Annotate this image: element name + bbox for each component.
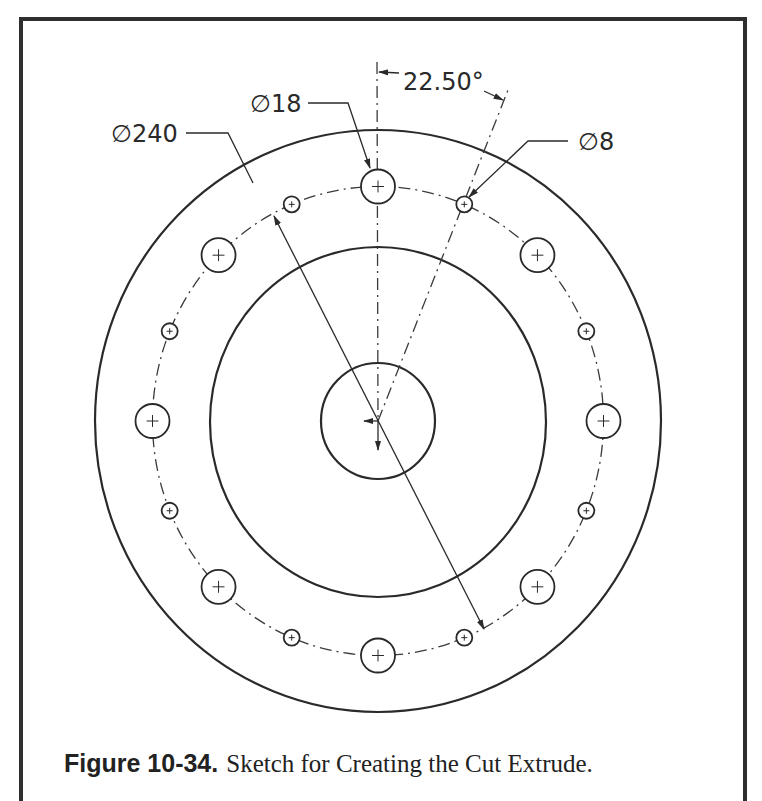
diameter-8-label: ∅8 [578,128,614,156]
large-hole [136,404,170,438]
angle-dim-arrow-right [484,91,503,100]
figure-caption: Figure 10-34.Sketch for Creating the Cut… [64,748,593,779]
small-hole [578,503,594,519]
figure-title: Sketch for Creating the Cut Extrude. [226,750,593,777]
small-hole [456,630,472,646]
small-hole [162,503,178,519]
diameter-240-leader [186,133,253,183]
figure-number: Figure 10-34. [64,749,218,777]
diameter-240-dimension-line [274,216,484,629]
small-hole [284,196,300,212]
large-hole [361,639,395,673]
large-hole [202,570,236,604]
small-hole [162,323,178,339]
diameter-240-label: ∅240 [111,120,178,148]
origin-marker [364,421,378,450]
vertical-centerline [377,62,378,421]
large-hole [587,404,621,438]
large-hole [202,238,236,272]
large-hole [520,238,554,272]
angle-construction-line [378,90,508,421]
small-hole [284,630,300,646]
angle-dim-arrow-left [379,72,399,73]
angle-label: 22.50° [403,68,484,96]
large-hole [361,170,395,204]
small-hole [456,196,472,212]
large-hole [520,570,554,604]
diameter-18-label: ∅18 [250,90,301,118]
diameter-18-leader [308,103,370,168]
small-hole [578,323,594,339]
